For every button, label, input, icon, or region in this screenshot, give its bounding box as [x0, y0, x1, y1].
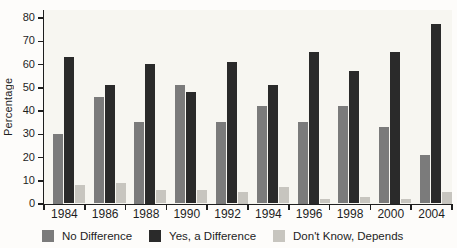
legend-swatch-yes-a-difference	[149, 230, 161, 242]
y-tick-mark	[38, 203, 43, 205]
x-tick-label-1986: 1986	[85, 207, 126, 221]
y-tick-mark	[38, 157, 43, 159]
bar-1998-series-1	[349, 71, 359, 204]
bar-1996-series-0	[298, 122, 308, 203]
x-tick-label-1988: 1988	[126, 207, 167, 221]
bar-1992-series-2	[238, 192, 248, 204]
y-tick-label: 80	[8, 11, 35, 24]
y-tick-mark	[38, 64, 43, 66]
x-tick-label-1998: 1998	[330, 207, 371, 221]
legend-item-yes-a-difference: Yes, a Difference	[149, 229, 256, 243]
legend-label-no-difference: No Difference	[62, 229, 132, 243]
x-tick-label-2004: 2004	[411, 207, 452, 221]
bar-1996-series-1	[309, 52, 319, 203]
legend-label-dont-know-depends: Don't Know, Depends	[293, 229, 403, 243]
y-tick-label: 40	[8, 104, 35, 117]
bar-2000-series-2	[401, 199, 411, 204]
bar-1984-series-1	[64, 57, 74, 203]
legend-label-yes-a-difference: Yes, a Difference	[169, 229, 256, 243]
y-tick-label: 60	[8, 58, 35, 71]
bar-1994-series-2	[279, 187, 289, 203]
y-tick-mark	[38, 180, 43, 182]
x-tick-label-2000: 2000	[370, 207, 411, 221]
y-tick-mark	[38, 41, 43, 43]
bar-chart-figure: Percentage 01020304050607080 19841986198…	[0, 0, 457, 248]
x-tick-label-1994: 1994	[248, 207, 289, 221]
legend-swatch-dont-know-depends	[273, 230, 285, 242]
y-tick-mark	[38, 17, 43, 19]
bar-1998-series-2	[360, 197, 370, 204]
bar-1984-series-0	[53, 134, 63, 204]
bar-1992-series-1	[227, 62, 237, 204]
bar-1990-series-2	[197, 190, 207, 204]
y-tick-mark	[38, 87, 43, 89]
bar-1988-series-2	[156, 190, 166, 204]
y-tick-label: 30	[8, 127, 35, 140]
y-tick-label: 10	[8, 174, 35, 187]
bar-1996-series-2	[320, 199, 330, 204]
bar-1986-series-2	[116, 183, 126, 204]
bar-1986-series-0	[94, 97, 104, 204]
y-tick-label: 0	[8, 197, 35, 210]
bar-1988-series-0	[134, 122, 144, 203]
x-tick-label-1996: 1996	[289, 207, 330, 221]
bar-2004-series-0	[420, 155, 430, 204]
bar-2000-series-1	[390, 52, 400, 203]
bar-2000-series-0	[379, 127, 389, 204]
bar-1994-series-0	[257, 106, 267, 204]
legend-item-dont-know-depends: Don't Know, Depends	[273, 229, 403, 243]
legend: No Difference Yes, a Difference Don't Kn…	[42, 229, 403, 243]
legend-item-no-difference: No Difference	[42, 229, 132, 243]
bar-1990-series-1	[186, 92, 196, 204]
y-tick-label: 50	[8, 81, 35, 94]
bar-1986-series-1	[105, 85, 115, 204]
y-tick-label: 70	[8, 34, 35, 47]
legend-swatch-no-difference	[42, 230, 54, 242]
x-tick-label-1990: 1990	[166, 207, 207, 221]
bar-1990-series-0	[175, 85, 185, 204]
bar-1984-series-2	[75, 185, 85, 204]
bar-1988-series-1	[145, 64, 155, 204]
y-axis-line	[43, 10, 45, 205]
bar-2004-series-2	[442, 192, 452, 204]
y-tick-label: 20	[8, 151, 35, 164]
x-tick-label-1984: 1984	[44, 207, 85, 221]
y-tick-mark	[38, 110, 43, 112]
y-tick-mark	[38, 134, 43, 136]
bar-1994-series-1	[268, 85, 278, 204]
bar-2004-series-1	[431, 24, 441, 203]
bar-1998-series-0	[338, 106, 348, 204]
x-tick-label-1992: 1992	[207, 207, 248, 221]
bar-1992-series-0	[216, 122, 226, 203]
